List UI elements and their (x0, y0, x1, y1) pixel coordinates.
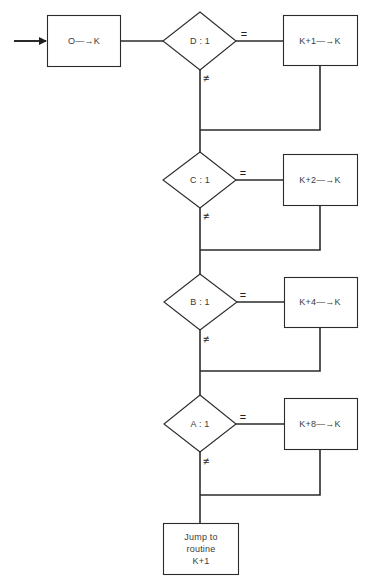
decision-c-label: C : 1 (190, 175, 210, 185)
decision-d-equal-label: = (241, 29, 247, 40)
decision-b-notequal-label: ≠ (203, 334, 209, 345)
decision-b-label: B : 1 (190, 297, 210, 307)
connector (200, 206, 320, 250)
decision-a-label: A : 1 (190, 419, 209, 429)
decision-b-equal-label: = (240, 290, 246, 301)
decision-c-notequal-label: ≠ (203, 211, 209, 222)
end-box-line-2: routine (184, 543, 217, 555)
action-c-label: K+2—→K (299, 175, 340, 185)
connector (200, 66, 320, 130)
end-box-line-3: K+1 (184, 555, 217, 567)
decision-d-label: D : 1 (190, 36, 210, 46)
action-b-label: K+4—→K (299, 297, 340, 307)
connector (200, 450, 320, 495)
start-box-label: O—→K (68, 36, 100, 46)
action-d-label: K+1—→K (299, 36, 340, 46)
decision-d-notequal-label: ≠ (203, 73, 209, 84)
decision-c-equal-label: = (240, 168, 246, 179)
decision-a-notequal-label: ≠ (203, 456, 209, 467)
connector (200, 328, 320, 371)
decision-a-equal-label: = (240, 412, 246, 423)
end-box-line-1: Jump to (184, 531, 217, 543)
action-a-label: K+8—→K (299, 419, 340, 429)
end-box-label: Jump to routine K+1 (184, 531, 217, 567)
flowchart-canvas (0, 0, 372, 586)
